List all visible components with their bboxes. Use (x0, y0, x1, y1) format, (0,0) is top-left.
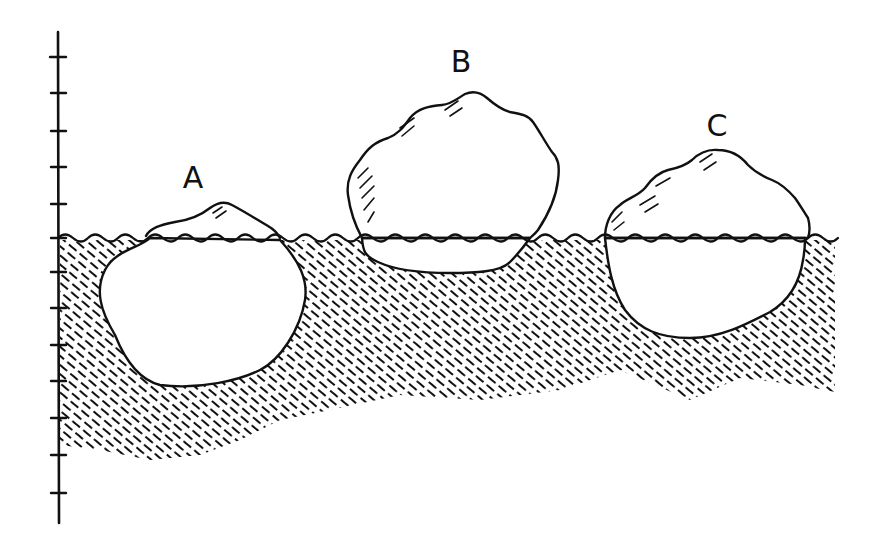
iceberg-diagram: A B C (0, 0, 882, 551)
iceberg-b-label: B (451, 44, 472, 79)
iceberg-c-above-water (605, 150, 810, 238)
iceberg-b-above-water (348, 92, 559, 238)
iceberg-a-label: A (183, 160, 204, 195)
iceberg-a-above-water (146, 203, 280, 238)
iceberg-c-label: C (707, 108, 728, 143)
